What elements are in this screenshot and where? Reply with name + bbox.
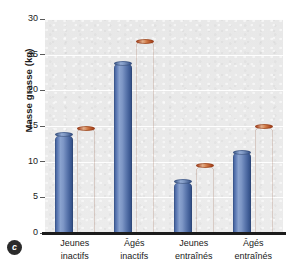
x-label-line-2: inactifs xyxy=(105,250,165,263)
x-label-line-2: inactifs xyxy=(45,250,105,263)
bar-2-group-3[interactable] xyxy=(196,166,214,233)
bar-top-cap xyxy=(196,163,214,168)
bar-series-group xyxy=(45,19,283,233)
x-label-line-2: entraînés xyxy=(224,250,284,263)
x-label-group-4: Âgésentraînés xyxy=(224,237,284,263)
bar-top-cap xyxy=(174,179,192,184)
plot-area xyxy=(45,19,283,233)
bar-top-cap xyxy=(55,132,73,137)
y-tick-label: 10 xyxy=(28,156,38,166)
x-label-line-2: entraînés xyxy=(164,250,224,263)
bar-1-group-4[interactable] xyxy=(233,152,251,233)
x-label-line-1: Jeunes xyxy=(45,237,105,250)
bar-top-cap xyxy=(233,150,251,155)
y-tick-label: 30 xyxy=(28,13,38,23)
bar-top-cap xyxy=(114,61,132,66)
y-tick-label: 0 xyxy=(33,227,38,237)
bar-top-cap xyxy=(255,124,273,129)
bar-2-group-4[interactable] xyxy=(255,127,273,233)
x-label-group-3: Jeunesentraînés xyxy=(164,237,224,263)
x-axis-category-labels: JeunesinactifsÂgésinactifsJeunesentraîné… xyxy=(45,237,283,271)
x-label-line-1: Âgés xyxy=(224,237,284,250)
bar-top-cap xyxy=(77,126,95,131)
y-tick-label: 20 xyxy=(28,84,38,94)
bar-1-group-1[interactable] xyxy=(55,135,73,233)
x-label-group-1: Jeunesinactifs xyxy=(45,237,105,263)
figure-panel: Masse grasse (kg) 051015202530 Jeunesina… xyxy=(0,0,291,274)
y-tick-label: 15 xyxy=(28,120,38,130)
bar-2-group-1[interactable] xyxy=(77,128,95,233)
bar-1-group-2[interactable] xyxy=(114,63,132,233)
x-label-line-1: Jeunes xyxy=(164,237,224,250)
panel-label-badge: c xyxy=(7,240,22,255)
y-tick-label: 5 xyxy=(33,191,38,201)
bar-2-group-2[interactable] xyxy=(136,41,154,233)
x-label-group-2: Âgésinactifs xyxy=(105,237,165,263)
bar-1-group-3[interactable] xyxy=(174,182,192,233)
y-tick-label: 25 xyxy=(28,49,38,59)
x-axis-line xyxy=(42,232,286,235)
bar-top-cap xyxy=(136,39,154,44)
x-label-line-1: Âgés xyxy=(105,237,165,250)
y-axis-ticks: 051015202530 xyxy=(0,0,46,274)
